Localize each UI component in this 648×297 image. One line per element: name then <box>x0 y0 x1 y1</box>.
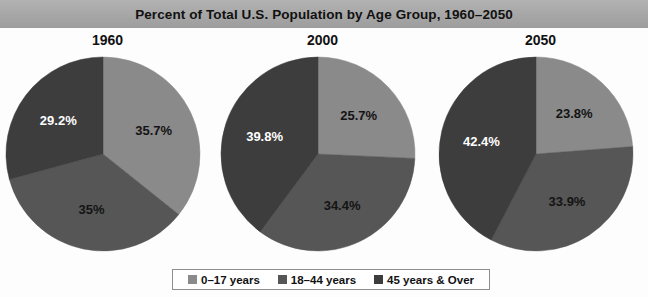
pie-chart-2050: 23.8% 33.9% 42.4% <box>433 52 648 262</box>
chart-title: Percent of Total U.S. Population by Age … <box>135 7 513 22</box>
pie-slice-label-18-44: 34.4% <box>324 197 361 212</box>
pie-slice-label-18-44: 35% <box>79 202 105 217</box>
pie-svg <box>215 52 430 262</box>
pie-svg <box>433 52 648 262</box>
legend-label: 45 years & Over <box>387 274 474 286</box>
square-swatch-icon <box>278 275 287 284</box>
pie-slice-label-0-17: 25.7% <box>340 108 377 123</box>
legend-label: 0–17 years <box>201 274 260 286</box>
pie-panel-2000: 2000 25.7% 34.4% 39.8% <box>215 30 430 262</box>
pie-slice-label-45-over: 29.2% <box>40 112 77 127</box>
square-swatch-icon <box>188 275 197 284</box>
pie-svg <box>0 52 215 262</box>
pie-chart-2000: 25.7% 34.4% 39.8% <box>215 52 430 262</box>
chart-legend: 0–17 years 18–44 years 45 years & Over <box>172 269 490 290</box>
pie-slice-label-18-44: 33.9% <box>549 193 586 208</box>
pie-panel-title: 2000 <box>215 32 430 48</box>
pie-panel-2050: 2050 23.8% 33.9% 42.4% <box>433 30 648 262</box>
pie-slice-label-0-17: 35.7% <box>135 122 172 137</box>
pie-panel-title: 2050 <box>433 32 648 48</box>
legend-item-45-over: 45 years & Over <box>374 274 474 286</box>
legend-item-0-17: 0–17 years <box>188 274 260 286</box>
pie-panel-title: 1960 <box>0 32 215 48</box>
pie-slice-label-45-over: 39.8% <box>246 129 283 144</box>
chart-title-bar: Percent of Total U.S. Population by Age … <box>0 0 648 28</box>
legend-label: 18–44 years <box>291 274 356 286</box>
square-swatch-icon <box>374 275 383 284</box>
legend-item-18-44: 18–44 years <box>278 274 356 286</box>
pie-panel-1960: 1960 35.7% 35% 29.2% <box>0 30 215 262</box>
pie-slice-label-45-over: 42.4% <box>463 133 500 148</box>
pie-slice-label-0-17: 23.8% <box>556 105 593 120</box>
pie-chart-1960: 35.7% 35% 29.2% <box>0 52 215 262</box>
chart-figure: Percent of Total U.S. Population by Age … <box>0 0 648 297</box>
